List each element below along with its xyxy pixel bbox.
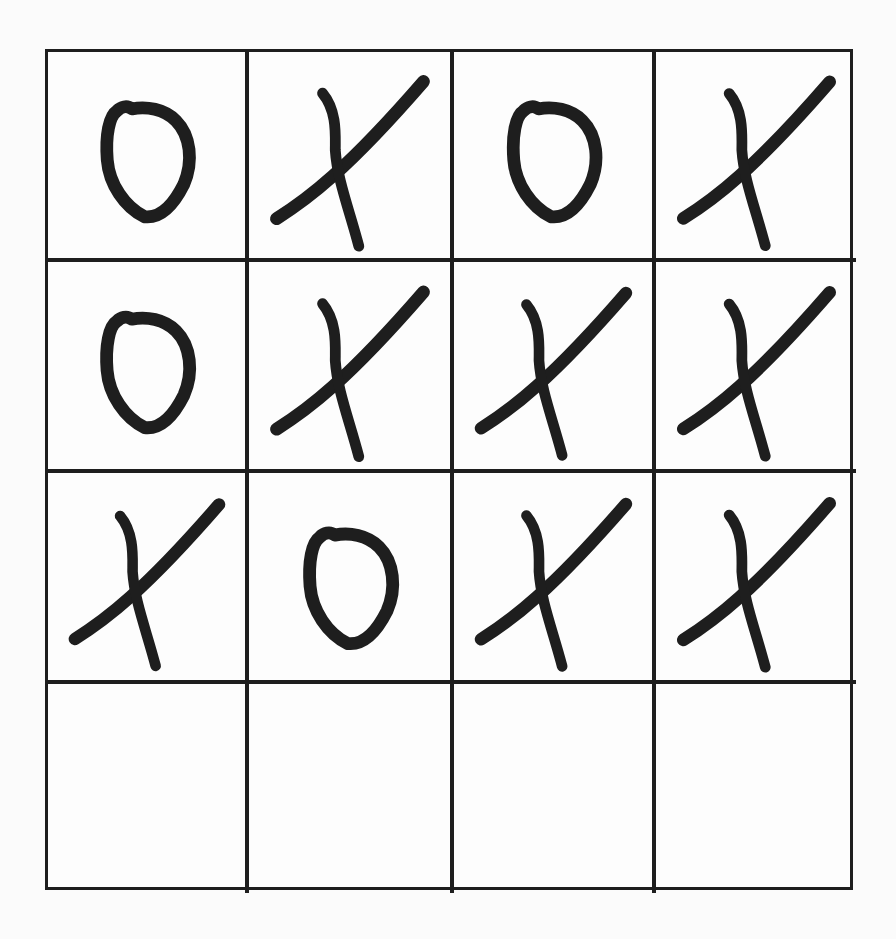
cell-r4-c4[interactable] [656,684,856,893]
cell-mark [249,684,250,685]
cell-r4-c2[interactable] [249,684,454,893]
cell-mark [48,684,49,685]
cell-r2-c1[interactable]: O [48,262,249,473]
cell-mark [656,684,657,685]
cell-r3-c4[interactable]: X [656,473,856,684]
o-mark-icon [48,52,245,258]
x-mark-icon [454,473,652,680]
tic-tac-toe-board: O X O X O X X X X O X X [45,49,853,890]
cell-r3-c2[interactable]: O [249,473,454,684]
cell-mark [454,684,455,685]
cell-r2-c4[interactable]: X [656,262,856,473]
x-mark-icon [656,473,856,680]
o-mark-icon [48,262,245,469]
x-mark-icon [48,473,245,680]
x-mark-icon [656,262,856,469]
o-mark-icon [454,52,652,258]
x-mark-icon [454,262,652,469]
cell-r1-c2[interactable]: X [249,52,454,262]
cell-r4-c1[interactable] [48,684,249,893]
cell-r2-c2[interactable]: X [249,262,454,473]
x-mark-icon [656,52,856,258]
cell-r3-c1[interactable]: X [48,473,249,684]
o-mark-icon [249,473,450,680]
cell-r1-c4[interactable]: X [656,52,856,262]
cell-r3-c3[interactable]: X [454,473,656,684]
cell-r2-c3[interactable]: X [454,262,656,473]
cell-r1-c3[interactable]: O [454,52,656,262]
cell-r4-c3[interactable] [454,684,656,893]
cell-r1-c1[interactable]: O [48,52,249,262]
x-mark-icon [249,52,450,258]
x-mark-icon [249,262,450,469]
